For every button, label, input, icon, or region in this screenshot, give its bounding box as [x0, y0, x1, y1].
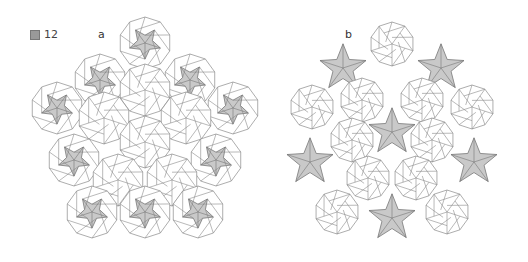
tiling-b: [287, 22, 497, 238]
tiling-a: [32, 17, 257, 238]
tiling-diagram: [0, 0, 528, 262]
